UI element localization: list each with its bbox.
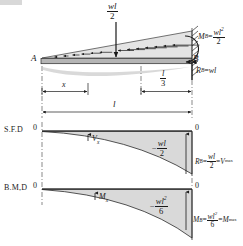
- sfd-reaction-num: wl: [208, 152, 215, 161]
- sfd-title: S.F.D: [4, 126, 23, 134]
- dimension-x-label: x: [62, 81, 66, 89]
- bmd-plot: [42, 182, 192, 240]
- sfd-left-zero: 0: [33, 124, 37, 132]
- bmd-mmax-sub: max: [229, 218, 237, 223]
- fixed-moment-label: MB= wl2 2: [198, 27, 225, 46]
- bmd-curve-label: Mx: [99, 193, 108, 203]
- reaction-value: wl: [209, 67, 217, 75]
- bmd-peak-num: wl: [156, 196, 164, 206]
- fixed-moment-num: wl: [214, 28, 222, 37]
- sfd-peak-label: − wl 2: [152, 139, 167, 158]
- bmd-moment-exp: 2: [215, 211, 217, 216]
- free-end-label: A: [31, 54, 37, 63]
- sfd-plot: [42, 122, 192, 186]
- fixed-end-label: B: [193, 54, 199, 63]
- bmd-peak-label: − wl2 6: [150, 196, 168, 216]
- bmd-curve-sub: x: [106, 197, 108, 203]
- sfd-curve-sub: x: [97, 139, 99, 145]
- bmd-moment-note: MB= wl2 6 =Mmax: [193, 211, 237, 229]
- bmd-peak-exp: 2: [164, 195, 167, 201]
- sfd-reaction-den: 2: [210, 161, 214, 170]
- fixed-moment-den: 2: [217, 37, 221, 46]
- fixed-moment-exp: 2: [221, 26, 224, 32]
- resultant-load-num: wl: [108, 1, 117, 11]
- dimension-span-label: l: [113, 100, 116, 109]
- third-den: 3: [161, 78, 165, 88]
- distributed-load-region: [42, 31, 199, 58]
- dimension-l-third-label: l 3: [160, 69, 166, 88]
- bmd-left-zero: 0: [33, 182, 37, 190]
- third-num: l: [162, 68, 164, 78]
- bmd-title: B.M,D: [4, 184, 27, 192]
- bmd-right-zero: 0: [195, 182, 199, 190]
- bmd-moment-den: 6: [211, 220, 215, 229]
- sfd-curve-label: Vx: [92, 135, 99, 145]
- beam-diagram-figure: wl 2 A B MB= wl2 2 RB=wl x l 3 l S.F.D 0…: [0, 0, 243, 246]
- sfd-peak-num: wl: [158, 138, 166, 148]
- reaction-label: RB=wl: [196, 67, 216, 75]
- sfd-vmax-sub: max: [225, 159, 233, 164]
- sfd-reaction-note: RB= wl 2 =Vmax: [195, 153, 233, 170]
- resultant-load-den: 2: [110, 11, 115, 21]
- sfd-right-zero: 0: [195, 124, 199, 132]
- deflected-shape: [43, 67, 190, 76]
- bmd-peak-den: 6: [159, 206, 163, 216]
- bmd-moment-num: wl: [208, 212, 215, 221]
- resultant-load-label: wl 2: [107, 2, 118, 22]
- beam-member: [41, 59, 192, 64]
- fixed-moment-symbol: M: [198, 33, 205, 41]
- sfd-peak-den: 2: [160, 148, 164, 158]
- dimension-l-third: [141, 88, 191, 95]
- bmd-curve-symbol: M: [99, 192, 106, 201]
